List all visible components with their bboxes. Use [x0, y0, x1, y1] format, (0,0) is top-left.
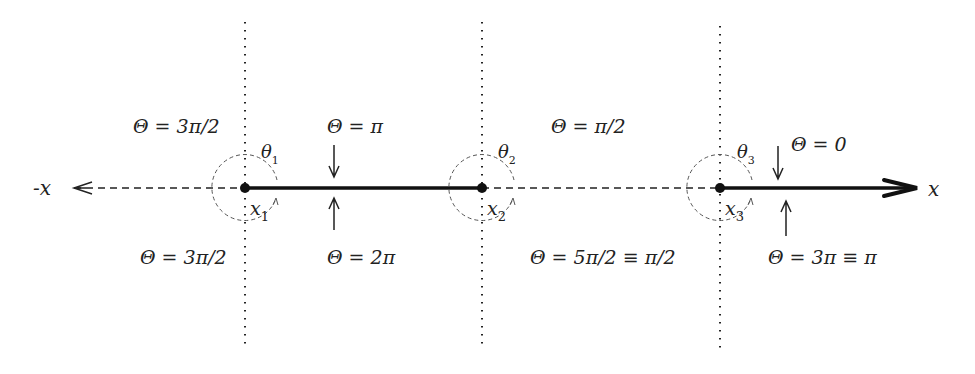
region-label-mid1-upper: Θ = π [327, 115, 384, 137]
arrow-up-icon [329, 198, 339, 230]
arrow-down-icon [773, 146, 783, 179]
region-label-right-upper: Θ = 0 [791, 133, 847, 155]
theta-label-2: θ2 [498, 141, 516, 167]
angle-arc-arrowhead-icon [748, 198, 753, 205]
theta-label-1: θ1 [261, 141, 279, 167]
angle-arc-arrowhead-icon [510, 198, 515, 205]
region-label-mid2-upper: Θ = π/2 [551, 115, 626, 137]
region-label-mid2-lower: Θ = 5π/2 ≡ π/2 [530, 246, 676, 268]
branch-cut-diagram: -x x x1 x2 x3 θ1 θ2 θ3 Θ = 3π/2 Θ = 3π/2… [0, 0, 975, 374]
region-label-left-lower: Θ = 3π/2 [140, 246, 227, 268]
arrow-down-icon [329, 145, 339, 177]
arrow-up-icon [781, 201, 791, 236]
angle-arc-arrowhead-icon [273, 198, 278, 205]
region-label-left-upper: Θ = 3π/2 [133, 115, 220, 137]
negative-axis-label: -x [33, 176, 51, 200]
branch-point-x1 [240, 183, 250, 193]
region-label-right-lower: Θ = 3π ≡ π [768, 246, 877, 268]
branch-point-x2 [477, 183, 487, 193]
theta-label-3: θ3 [737, 141, 755, 167]
region-label-mid1-lower: Θ = 2π [327, 246, 396, 268]
positive-axis-label: x [928, 177, 939, 201]
branch-point-x3 [715, 183, 725, 193]
